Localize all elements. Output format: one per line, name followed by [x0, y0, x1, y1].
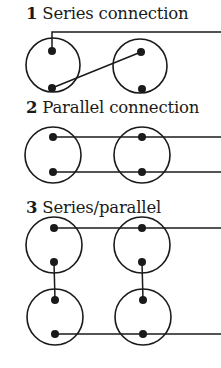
terminal-dot-icon — [49, 133, 57, 141]
terminal-dot-icon — [51, 296, 59, 304]
terminal-dot-icon — [49, 168, 57, 176]
terminal-dot-icon — [137, 48, 145, 56]
wire — [52, 32, 221, 51]
terminal-dot-icon — [138, 224, 146, 232]
terminal-dot-icon — [48, 47, 56, 55]
series-connection-drawing — [26, 32, 221, 93]
terminal-dot-icon — [51, 330, 59, 338]
wire — [54, 262, 55, 300]
terminal-dot-icon — [50, 224, 58, 232]
speaker-wiring-diagram: 1Series connection 2Parallel connection … — [0, 0, 221, 368]
terminal-dot-icon — [139, 296, 147, 304]
wire — [52, 52, 141, 88]
parallel-connection-drawing — [25, 127, 221, 183]
speaker-circle-icon — [113, 39, 167, 93]
terminal-dot-icon — [138, 168, 146, 176]
terminal-dot-icon — [48, 84, 56, 92]
wiring-drawing — [0, 0, 221, 368]
terminal-dot-icon — [138, 258, 146, 266]
terminal-dot-icon — [138, 85, 146, 93]
terminal-dot-icon — [138, 133, 146, 141]
terminal-dot-icon — [50, 258, 58, 266]
speaker-circle-icon — [26, 38, 80, 92]
wire — [142, 262, 143, 300]
series-parallel-drawing — [26, 217, 221, 345]
terminal-dot-icon — [139, 330, 147, 338]
